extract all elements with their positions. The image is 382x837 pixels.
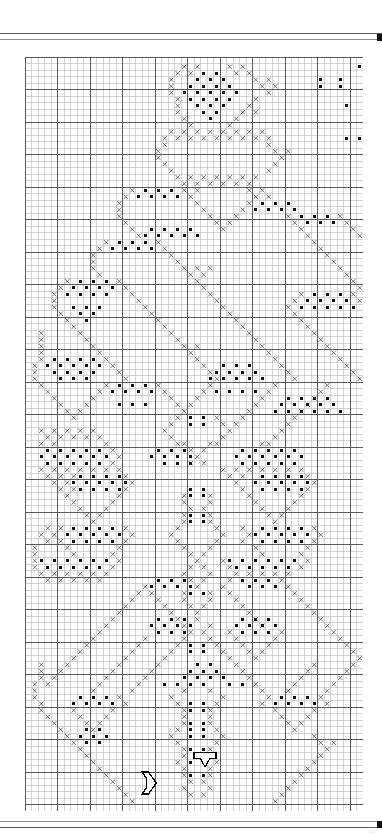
page-canvas: 127 — [0, 0, 382, 837]
page-border-bottom-outer — [0, 827, 382, 828]
page-number: 127 — [369, 829, 378, 834]
cross-stitch-chart — [25, 57, 363, 811]
chart-grid-svg — [25, 57, 363, 811]
page-corner-mark-top — [377, 34, 382, 41]
page-border-top-outer — [0, 33, 382, 34]
page-border-bottom-inner — [0, 821, 382, 822]
page-border-top-inner — [0, 39, 382, 40]
page-corner-mark-bottom — [377, 821, 382, 828]
